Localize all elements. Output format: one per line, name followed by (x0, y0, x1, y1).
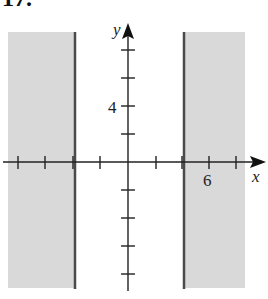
x-tick-label-6: 6 (203, 171, 212, 190)
inequality-graph: 4 6 y x (0, 0, 268, 299)
y-axis-label: y (111, 20, 121, 39)
x-axis-label: x (251, 167, 260, 186)
y-tick-label-4: 4 (108, 98, 117, 117)
